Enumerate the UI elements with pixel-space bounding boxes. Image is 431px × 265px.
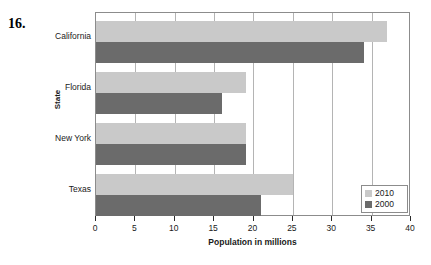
bar-chart-figure: 16. State California Florida New York Te… [0, 0, 431, 265]
x-tick-label-30: 30 [319, 223, 343, 233]
legend-item-2000: 2000 [365, 199, 404, 210]
y-tick-label-texas: Texas [33, 184, 91, 194]
y-tick-label-new-york: New York [33, 133, 91, 143]
x-axis-title: Population in millions [95, 237, 410, 247]
x-tick-0 [95, 216, 96, 221]
x-tick-20 [253, 216, 254, 221]
bar-florida-2000 [96, 93, 222, 114]
x-tick-label-0: 0 [83, 223, 107, 233]
x-tick-label-35: 35 [359, 223, 383, 233]
x-axis-tick-labels: 0510152025303540 [95, 223, 410, 235]
bar-new-york-2010 [96, 123, 246, 144]
problem-number: 16. [8, 16, 26, 32]
x-tick-label-5: 5 [122, 223, 146, 233]
bar-california-2010 [96, 21, 387, 42]
x-tick-label-20: 20 [241, 223, 265, 233]
legend-item-2010: 2010 [365, 188, 404, 199]
x-tick-label-15: 15 [201, 223, 225, 233]
x-tick-label-25: 25 [280, 223, 304, 233]
legend-swatch-2000-icon [365, 201, 372, 208]
x-tick-label-10: 10 [162, 223, 186, 233]
x-tick-40 [410, 216, 411, 221]
bar-new-york-2000 [96, 144, 246, 165]
legend-label-2000: 2000 [375, 199, 394, 210]
legend-swatch-2010-icon [365, 190, 372, 197]
legend: 2010 2000 [361, 185, 408, 213]
x-tick-35 [371, 216, 372, 221]
x-tick-10 [174, 216, 175, 221]
bar-texas-2010 [96, 174, 293, 195]
y-axis-tick-labels: California Florida New York Texas [33, 12, 91, 216]
x-tick-30 [331, 216, 332, 221]
y-tick-label-florida: Florida [33, 82, 91, 92]
legend-label-2010: 2010 [375, 188, 394, 199]
y-tick-label-california: California [33, 31, 91, 41]
bar-texas-2000 [96, 195, 261, 216]
x-axis-ticks [95, 216, 410, 222]
bar-california-2000 [96, 42, 364, 63]
bar-florida-2010 [96, 72, 246, 93]
x-tick-25 [292, 216, 293, 221]
x-tick-label-40: 40 [398, 223, 422, 233]
x-tick-5 [134, 216, 135, 221]
x-tick-15 [213, 216, 214, 221]
